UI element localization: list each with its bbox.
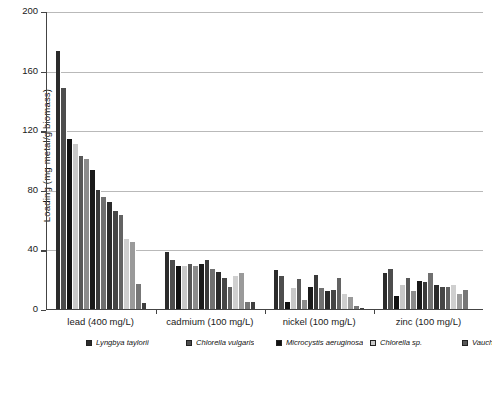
bar[interactable] [251,302,257,309]
bars [274,12,366,309]
y-tick-label: 80 [27,184,38,195]
y-tick-label: 120 [22,124,38,135]
y-tick-label: 160 [22,65,38,76]
y-axis-ticks: 04080120160200 [0,12,46,310]
legend-label: Microcystis aeruginosa [286,336,363,349]
legend-item[interactable]: Chlorella sp. [370,336,462,349]
legend-item[interactable]: Vaucheria dichotoma [462,336,492,349]
y-tick-label: 40 [27,243,38,254]
y-tick: 40 [0,250,46,251]
bar-group [374,12,483,309]
x-tick-mark [374,309,375,314]
x-axis-label: lead (400 mg/L) [46,316,155,327]
y-tick: 0 [0,310,46,311]
legend-swatch-icon [86,340,92,346]
legend-swatch-icon [276,340,282,346]
x-axis-labels: lead (400 mg/L)cadmium (100 mg/L)nickel … [46,316,483,327]
plot-area [46,12,483,310]
y-tick-mark [41,310,46,311]
legend-label: Chlorella sp. [380,336,422,349]
bar[interactable] [463,290,469,309]
bar-group [156,12,265,309]
legend-swatch-icon [186,340,192,346]
y-tick: 120 [0,131,46,132]
legend-item[interactable]: Chlorella vulgaris [186,336,276,349]
bars [165,12,257,309]
legend-label: Lyngbya taylorii [96,336,149,349]
legend: Lyngbya tayloriiChlorella vulgarisMicroc… [86,336,482,349]
bar-chart: Loading (mg metal/g biomass) 04080120160… [0,0,492,395]
bar-group [265,12,374,309]
bars [383,12,475,309]
bar-group [47,12,156,309]
y-tick: 160 [0,72,46,73]
x-axis-label: cadmium (100 mg/L) [155,316,264,327]
legend-swatch-icon [370,340,376,346]
y-tick: 200 [0,12,46,13]
x-tick-mark [265,309,266,314]
y-tick: 80 [0,191,46,192]
legend-label: Vaucheria dichotoma [472,336,492,349]
legend-label: Chlorella vulgaris [196,336,254,349]
x-tick-mark [156,309,157,314]
y-tick-label: 0 [33,303,38,314]
legend-item[interactable]: Lyngbya taylorii [86,336,186,349]
bars [56,12,148,309]
x-axis-label: nickel (100 mg/L) [265,316,374,327]
bar[interactable] [142,303,148,309]
x-axis-label: zinc (100 mg/L) [374,316,483,327]
legend-swatch-icon [462,340,468,346]
bar[interactable] [360,308,366,309]
legend-item[interactable]: Microcystis aeruginosa [276,336,370,349]
bar-groups [47,12,483,309]
y-tick-label: 200 [22,5,38,16]
